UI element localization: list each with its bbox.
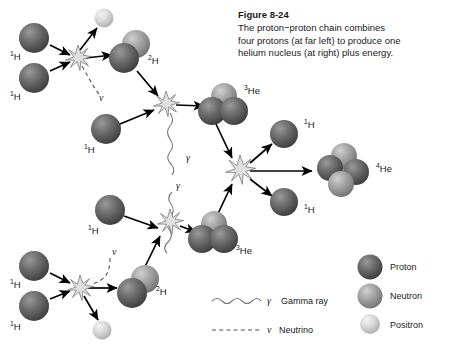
legend-positron-swatch xyxy=(360,314,380,334)
figure-pp-chain: Figure 8-24 The proton−proton chain comb… xyxy=(0,0,450,351)
legend-particle-swatches xyxy=(0,0,450,351)
legend-positron-label: Positron xyxy=(390,320,423,330)
legend-proton-label: Proton xyxy=(390,262,417,272)
legend-neutron-swatch xyxy=(358,284,383,309)
legend-proton-swatch xyxy=(358,255,383,280)
legend-neutron-label: Neutron xyxy=(390,291,422,301)
